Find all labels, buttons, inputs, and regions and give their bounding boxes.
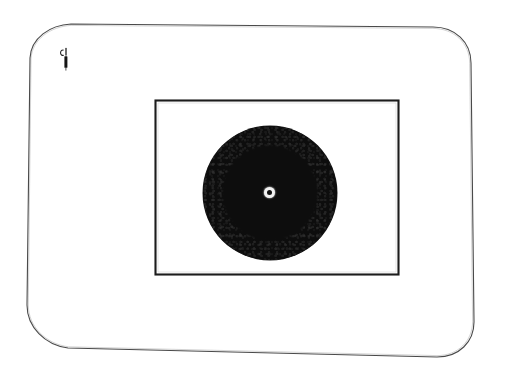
- center-marker-dot: [267, 190, 272, 195]
- center-marker: [264, 187, 275, 198]
- ink-bar: [64, 56, 67, 68]
- corner-ink-mark: [58, 46, 74, 72]
- corner-ink-mark-glyph: [58, 46, 74, 72]
- ink-loop: [61, 50, 64, 55]
- figure-canvas: Scanned plate: dark circular disc center…: [0, 0, 505, 377]
